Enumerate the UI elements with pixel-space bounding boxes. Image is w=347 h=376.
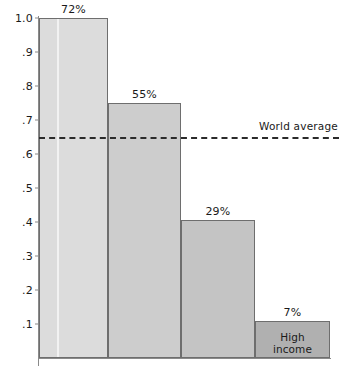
y-axis-tick-label: .7 [22, 114, 39, 127]
y-axis-tick-label: .1 [22, 318, 39, 331]
y-axis-tick-label: .3 [22, 250, 39, 263]
bar-value-label: 72% [61, 3, 86, 16]
x-axis-line [38, 358, 331, 359]
bar-1[interactable]: 72% [39, 18, 108, 358]
bar-value-label: 29% [205, 205, 230, 218]
bar-highlight-stripe [57, 19, 59, 357]
bar-chart: 1.0.9.8.7.6.5.4.3.2.1 72%55%29%7%Highinc… [0, 0, 347, 376]
bar-category-label-line1: High [256, 331, 329, 344]
y-axis-tick-label: .6 [22, 148, 39, 161]
y-axis-tick-label: .4 [22, 216, 39, 229]
world-average-label: World average [259, 120, 338, 132]
bar-2[interactable]: 55% [108, 103, 181, 358]
bar-value-label: 7% [284, 306, 302, 319]
y-axis-tick-label: .5 [22, 182, 39, 195]
bar-4[interactable]: 7%Highincome [255, 321, 330, 358]
world-average-line [39, 137, 339, 139]
bar-category-label: Highincome [256, 331, 329, 356]
y-axis-tick-label: .2 [22, 284, 39, 297]
plot-area: 72%55%29%7%Highincome [39, 18, 330, 358]
bar-3[interactable]: 29% [181, 220, 255, 358]
y-axis-tick-label: 1.0 [15, 12, 39, 25]
y-axis-tick-label: .9 [22, 46, 39, 59]
bar-value-label: 55% [132, 88, 157, 101]
y-axis-tick-label: .8 [22, 80, 39, 93]
bar-category-label-line2: income [256, 343, 329, 356]
